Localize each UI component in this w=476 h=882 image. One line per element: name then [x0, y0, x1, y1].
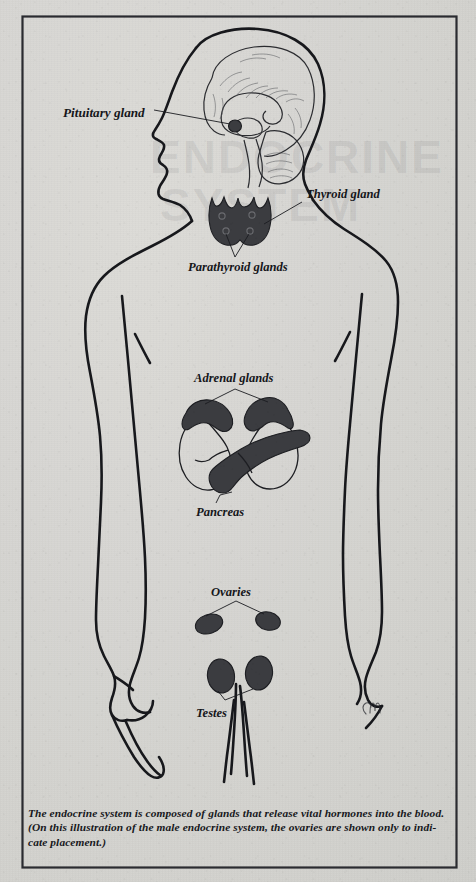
brain-illustration [204, 46, 314, 188]
abdominal-organs-group [179, 398, 310, 493]
ovaries-group [193, 609, 283, 637]
anatomical-figure: Pituitary gland [0, 0, 476, 882]
endocrine-system-illustration: ENDOCRINE SYSTEM [0, 0, 476, 882]
adrenal-leader-line-2 [235, 389, 268, 402]
pancreas-shape [209, 430, 310, 493]
ovaries-leader-line-2 [236, 601, 264, 614]
pancreas-leader-line-2 [216, 495, 220, 503]
thyroid-label: Thyroid gland [306, 187, 381, 201]
adrenal-leader-line-1 [205, 389, 235, 404]
thyroid-gland-shape [209, 197, 271, 245]
adrenal-gland-left-shape [182, 400, 233, 432]
page-frame [23, 17, 457, 868]
caption-line-1: The endocrine system is composed of glan… [28, 806, 448, 820]
caption-line-2: (On this illustration of the male endocr… [28, 820, 448, 834]
body-outline-group [85, 200, 398, 784]
parathyroid-label: Parathyroid glands [188, 260, 288, 274]
testes-label: Testes [196, 706, 227, 720]
thyroid-gland-group [209, 197, 271, 245]
pituitary-leader-line [154, 110, 230, 124]
adrenal-gland-right-shape [244, 398, 293, 431]
ovaries-label: Ovaries [211, 585, 251, 599]
caption: The endocrine system is composed of glan… [28, 806, 448, 849]
testis-right-shape [243, 654, 274, 691]
caption-line-3: cate placement.) [28, 835, 448, 849]
pancreas-label: Pancreas [196, 505, 244, 519]
ovaries-leader-line-1 [206, 601, 236, 616]
pituitary-gland-shape [229, 120, 242, 132]
testis-left-shape [205, 657, 236, 694]
pituitary-label: Pituitary gland [63, 105, 145, 120]
ovary-right-shape [254, 609, 283, 633]
adrenal-label: Adrenal glands [193, 371, 274, 385]
